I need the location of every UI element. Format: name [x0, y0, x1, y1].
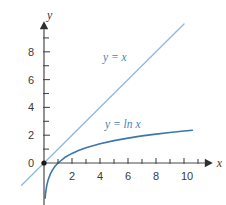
line-y-equals-x [22, 24, 184, 185]
x-tick-label: 2 [69, 171, 75, 182]
x-tick-label: 6 [125, 171, 131, 182]
x-axis-label: x [217, 157, 222, 169]
x-tick-label: 4 [97, 171, 103, 182]
figure-container: y x 24681002468 y = xy = ln x [0, 0, 226, 205]
origin-marker [41, 160, 46, 165]
x-tick-label: 10 [181, 171, 193, 182]
x-tick-label: 8 [153, 171, 159, 182]
x-axis-arrowhead [205, 159, 213, 167]
curve-annotation: y = x [103, 52, 127, 64]
y-tick-label: 2 [28, 130, 34, 141]
y-tick-label: 8 [28, 47, 34, 58]
y-tick-label: 0 [28, 158, 34, 169]
y-axis-arrowhead [40, 21, 48, 29]
y-tick-label: 4 [28, 102, 34, 113]
curve-annotation: y = ln x [105, 119, 141, 131]
series-y-equals-x [22, 24, 184, 185]
y-tick-label: 6 [28, 75, 34, 86]
y-axis-label: y [47, 9, 52, 21]
